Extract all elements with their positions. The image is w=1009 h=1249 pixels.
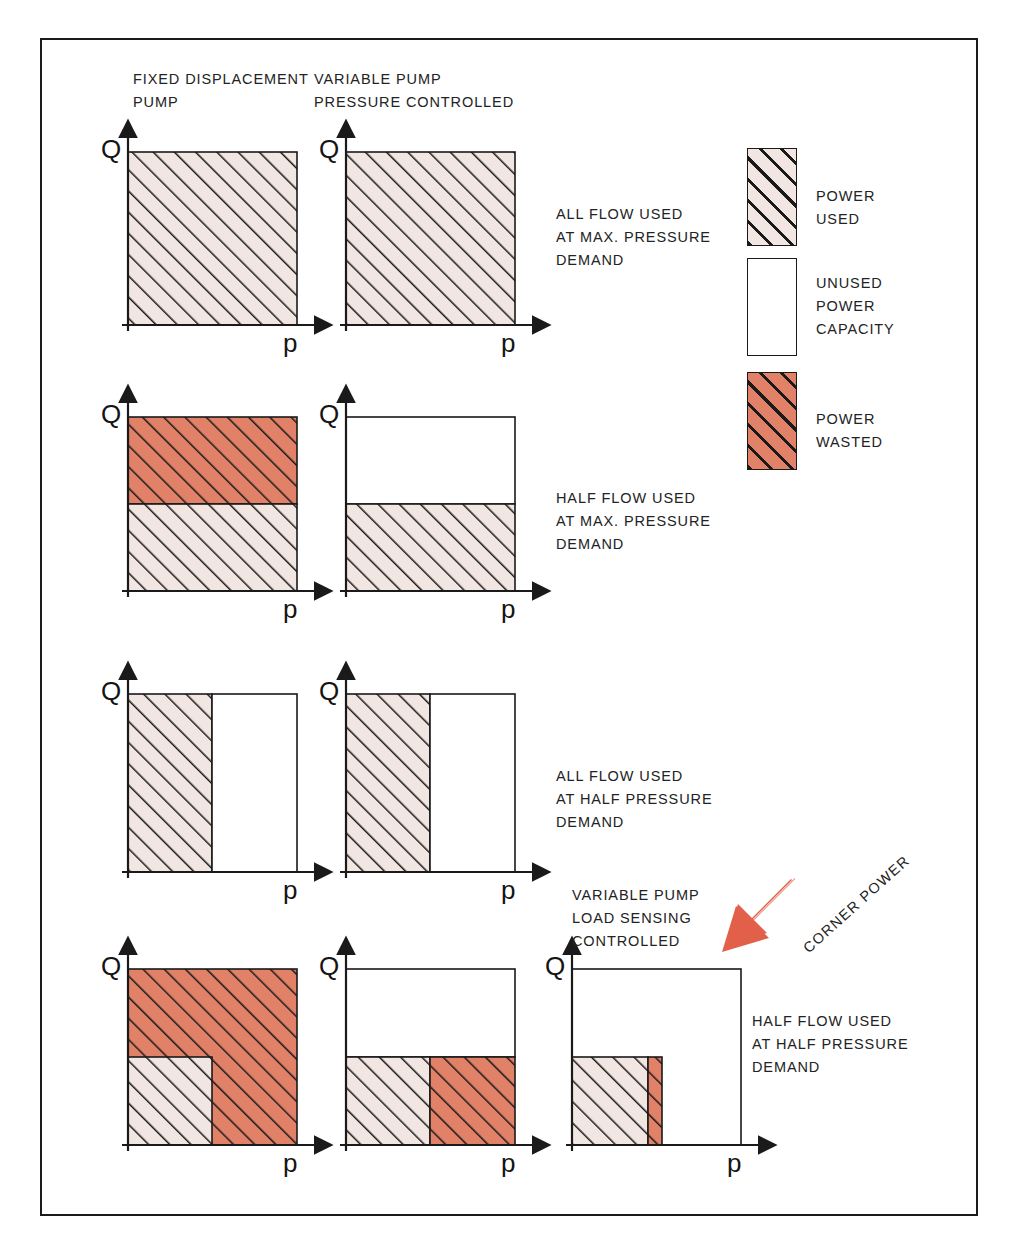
caption-row-4: HALF FLOW USED AT HALF PRESSURE DEMAND — [752, 1010, 908, 1079]
chart-r4c1 — [122, 953, 316, 1151]
legend-swatch-unused-power-capacity — [747, 258, 797, 356]
chart-r3c1 — [122, 678, 316, 878]
chart-r4c2 — [340, 953, 534, 1151]
caption-row-1: ALL FLOW USED AT MAX. PRESSURE DEMAND — [556, 203, 711, 272]
chart-r3c2 — [340, 678, 534, 878]
legend-swatch-power-used — [747, 148, 797, 246]
legend-label-power-used: POWER USED — [816, 185, 875, 231]
axis-label-q-r2c1: Q — [101, 401, 121, 427]
axis-label-q-r3c2: Q — [319, 678, 339, 704]
header-column-1: FIXED DISPLACEMENT PUMP — [133, 68, 309, 114]
axis-label-p-r3c1: p — [283, 877, 297, 903]
chart-r4c3 — [566, 953, 760, 1151]
axis-label-p-r4c1: p — [283, 1150, 297, 1176]
header-column-3: VARIABLE PUMP LOAD SENSING CONTROLLED — [572, 884, 699, 953]
chart-r2c2 — [340, 401, 534, 597]
header-column-2: VARIABLE PUMP PRESSURE CONTROLLED — [314, 68, 514, 114]
axis-label-p-r3c2: p — [501, 877, 515, 903]
chart-r2c1 — [122, 401, 316, 597]
legend-label-power-wasted: POWER WASTED — [816, 408, 883, 454]
chart-r1c2 — [340, 136, 534, 331]
corner-power-arrow — [722, 878, 795, 952]
caption-row-2: HALF FLOW USED AT MAX. PRESSURE DEMAND — [556, 487, 711, 556]
axis-label-p-r4c2: p — [501, 1150, 515, 1176]
caption-row-3: ALL FLOW USED AT HALF PRESSURE DEMAND — [556, 765, 712, 834]
axis-label-q-r4c3: Q — [545, 953, 565, 979]
chart-r1c1 — [122, 136, 316, 331]
axis-label-q-r2c2: Q — [319, 401, 339, 427]
diagram-stage: FIXED DISPLACEMENT PUMP VARIABLE PUMP PR… — [0, 0, 1009, 1249]
axis-label-p-r4c3: p — [727, 1150, 741, 1176]
legend-label-unused-power-capacity: UNUSED POWER CAPACITY — [816, 272, 895, 341]
axis-label-p-r2c2: p — [501, 596, 515, 622]
axis-label-q-r3c1: Q — [101, 678, 121, 704]
axis-label-p-r2c1: p — [283, 596, 297, 622]
axis-label-p-r1c2: p — [501, 330, 515, 356]
axis-label-q-r4c1: Q — [101, 953, 121, 979]
legend-swatch-power-wasted — [747, 372, 797, 470]
axis-label-p-r1c1: p — [283, 330, 297, 356]
axis-label-q-r1c1: Q — [101, 136, 121, 162]
axis-label-q-r1c2: Q — [319, 136, 339, 162]
axis-label-q-r4c2: Q — [319, 953, 339, 979]
